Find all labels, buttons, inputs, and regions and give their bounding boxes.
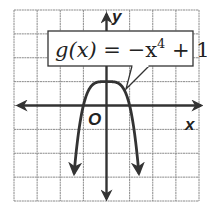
- function-eq: = −x: [97, 38, 158, 62]
- function-arg: (x): [68, 38, 96, 62]
- callout-pointer: [126, 66, 149, 89]
- y-axis-label: y: [111, 7, 123, 26]
- function-graph: g(x) = −x4 + 1 y x O: [0, 0, 207, 207]
- function-label-callout: g(x) = −x4 + 1: [48, 31, 207, 89]
- origin-label: O: [88, 110, 101, 129]
- function-label: g(x) = −x4 + 1: [55, 36, 207, 62]
- function-tail: + 1: [165, 38, 207, 62]
- function-name: g: [55, 38, 68, 62]
- function-exponent: 4: [157, 36, 165, 51]
- x-axis-label: x: [184, 115, 196, 134]
